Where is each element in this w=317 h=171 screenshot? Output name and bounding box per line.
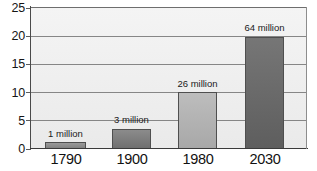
x-tick-label-1790: 1790 <box>37 152 95 167</box>
y-axis-line <box>30 6 31 149</box>
y-axis: 25 20 15 10 5 0 <box>0 0 25 171</box>
y-tick-label-15: 15 <box>0 58 25 71</box>
bar-label-1790: 1 million <box>43 129 88 139</box>
x-tick-label-1900: 1900 <box>103 152 161 167</box>
x-tick-label-1980: 1980 <box>169 152 227 167</box>
bar-1980 <box>178 92 217 148</box>
gridline-25 <box>31 7 307 8</box>
y-tick-label-25: 25 <box>0 2 25 15</box>
bar-2030 <box>245 37 284 149</box>
bar-label-1980: 26 million <box>171 79 224 89</box>
x-axis-line <box>30 148 308 149</box>
plot-right-border <box>306 7 307 149</box>
bar-label-1900: 3 million <box>108 115 155 125</box>
y-tick-label-5: 5 <box>0 115 25 128</box>
bar-chart: 25 20 15 10 5 0 1 million 3 million 26 m… <box>0 0 317 171</box>
y-tick-label-0: 0 <box>0 143 25 156</box>
y-tick-label-20: 20 <box>0 30 25 43</box>
bar-label-2030: 64 million <box>238 23 291 33</box>
x-tick-label-2030: 2030 <box>236 152 294 167</box>
y-tick-label-10: 10 <box>0 87 25 100</box>
bar-1900 <box>112 129 151 149</box>
